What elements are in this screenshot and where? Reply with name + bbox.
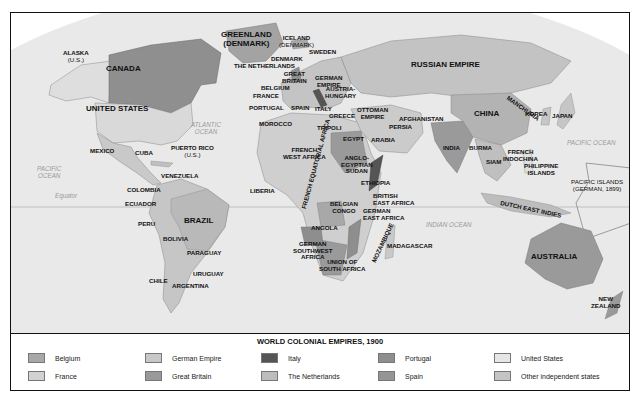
label-siam: SIAM [486,159,501,166]
legend-item-spain: Spain [378,370,423,382]
label-new-zealand: NEWZEALAND [591,296,621,309]
label-india: INDIA [443,145,460,152]
label-korea: KOREA [525,111,547,118]
legend-item-netherlands: The Netherlands [261,370,340,382]
label-brazil: BRAZIL [184,217,213,226]
label-burma: BURMA [469,145,492,152]
legend-swatch-icon [261,353,278,363]
label-portugal: PORTUGAL [249,105,284,112]
legend-swatch-icon [145,353,162,363]
label-australia: AUSTRALIA [531,253,577,262]
label-british-east-africa: BRITISHEAST AFRICA [373,193,414,206]
label-china: CHINA [474,110,499,119]
label-greenland: GREENLAND(DENMARK) [221,31,272,48]
ocean-label-indian: INDIAN OCEAN [426,221,471,228]
label-puerto-rico: PUERTO RICO(U.S.) [171,145,214,158]
legend-swatch-icon [145,371,162,381]
legend-swatch-icon [28,371,45,381]
ocean-label-pacific-west: PACIFICOCEAN [37,165,61,179]
label-austria-hungary: AUSTRIA-HUNGARY [325,86,356,99]
label-peru: PERU [138,221,155,228]
label-afghanistan: AFGHANISTAN [399,116,444,123]
label-chile: CHILE [149,278,168,285]
label-pacific-islands: PACIFIC ISLANDS(GERMAN, 1899) [571,179,623,192]
label-united-states: UNITED STATES [86,105,148,114]
label-union-of-south-africa: UNION OFSOUTH AFRICA [319,259,366,272]
legend-swatch-icon [494,353,511,363]
label-belgian-congo: BELGIANCONGO [330,201,358,214]
legend-swatch-icon [494,371,511,381]
world-map: PACIFICOCEAN ATLANTICOCEAN PACIFIC OCEAN… [10,12,630,334]
map-legend: WORLD COLONIAL EMPIRES, 1900 Belgium Fra… [10,333,630,391]
label-france: FRANCE [253,93,279,100]
label-persia: PERSIA [389,124,412,131]
label-ethiopia: ETHIOPIA [361,180,390,187]
label-arabia: ARABIA [371,137,395,144]
label-paraguay: PARAGUAY [187,250,221,257]
label-great-britain: GREATBRITAIN [282,71,307,84]
label-belgium: BELGIUM [261,85,290,92]
label-anglo-egyptian-sudan: ANGLO-EGYPTIANSUDAN [341,155,373,175]
legend-swatch-icon [378,371,395,381]
legend-item-other-independent-states: Other independent states [494,370,600,382]
label-german-east-africa: GERMANEAST AFRICA [363,208,404,221]
label-bolivia: BOLIVIA [163,236,188,243]
label-alaska: ALASKA(U.S.) [63,50,89,63]
legend-title: WORLD COLONIAL EMPIRES, 1900 [11,337,629,346]
label-spain: SPAIN [291,105,309,112]
legend-item-italy: Italy [261,352,301,364]
label-ottoman-empire: OTTOMANEMPIRE [357,107,388,120]
ocean-label-atlantic: ATLANTICOCEAN [191,121,221,135]
label-angola: ANGOLA [311,225,338,232]
label-philippine-islands: PHILIPPINEISLANDS [524,163,558,176]
label-canada: CANADA [106,65,141,74]
label-netherlands: THE NETHERLANDS [234,63,295,70]
legend-item-portugal: Portugal [378,352,431,364]
label-iceland: ICELAND(DENMARK) [279,35,314,48]
ocean-label-pacific-east: PACIFIC OCEAN [567,139,616,146]
label-russian-empire: RUSSIAN EMPIRE [411,61,480,70]
legend-item-great-britain: Great Britain [145,370,211,382]
label-madagascar: MADAGASCAR [387,243,432,250]
label-greece: GREECE [329,113,355,120]
legend-item-united-states: United States [494,352,563,364]
label-venezuela: VENEZUELA [161,173,198,180]
legend-swatch-icon [261,371,278,381]
label-liberia: LIBERIA [250,188,275,195]
legend-item-france: France [28,370,77,382]
equator-label: Equator [55,192,77,199]
label-colombia: COLOMBIA [127,187,161,194]
legend-swatch-icon [28,353,45,363]
label-mexico: MEXICO [90,148,114,155]
label-french-indochina: FRENCHINDOCHINA [503,149,538,162]
label-cuba: CUBA [135,150,153,157]
label-egypt: EGYPT [343,136,364,143]
label-sweden: SWEDEN [309,49,336,56]
legend-swatch-icon [378,353,395,363]
legend-item-belgium: Belgium [28,352,80,364]
label-uruguay: URUGUAY [193,271,224,278]
legend-item-german-empire: German Empire [145,352,221,364]
label-japan: JAPAN [552,113,573,120]
label-morocco: MOROCCO [259,121,292,128]
label-argentina: ARGENTINA [172,283,209,290]
label-ecuador: ECUADOR [125,201,156,208]
